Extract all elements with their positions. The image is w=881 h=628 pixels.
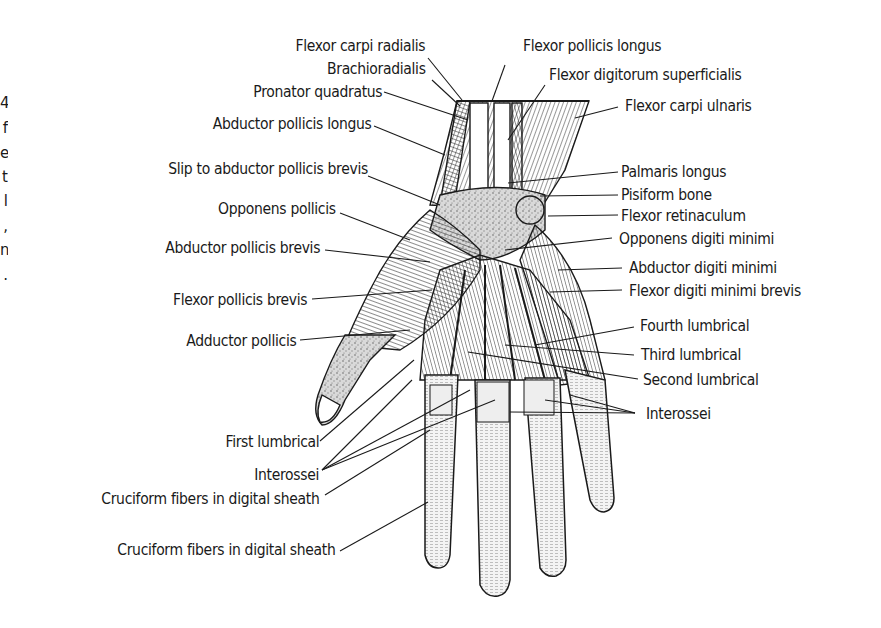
label-first-lumbrical: First lumbrical	[225, 433, 319, 451]
label-pisiform-bone: Pisiform bone	[621, 186, 712, 204]
label-slip-to-abductor-pollicis-brevis: Slip to abductor pollicis brevis	[168, 160, 368, 178]
label-interossei-left: Interossei	[254, 466, 319, 484]
label-interossei-right: Interossei	[646, 405, 711, 423]
hand-illustration	[0, 0, 881, 628]
label-opponens-pollicis: Opponens pollicis	[218, 200, 336, 218]
label-flexor-pollicis-brevis: Flexor pollicis brevis	[173, 291, 307, 309]
little-finger	[565, 370, 614, 512]
label-adductor-pollicis: Adductor pollicis	[186, 332, 296, 350]
fingers	[425, 370, 614, 596]
label-flexor-digitorum-superficialis: Flexor digitorum superficialis	[549, 66, 742, 84]
label-flexor-pollicis-longus: Flexor pollicis longus	[523, 37, 661, 55]
label-flexor-carpi-ulnaris: Flexor carpi ulnaris	[625, 97, 752, 115]
label-flexor-retinaculum: Flexor retinaculum	[621, 207, 746, 225]
label-abductor-digiti-minimi: Abductor digiti minimi	[629, 259, 777, 277]
label-flexor-carpi-radialis: Flexor carpi radialis	[295, 37, 425, 55]
hand-anatomy-figure: 4 f e t l , n .	[0, 0, 881, 628]
label-flexor-digiti-minimi-brevis: Flexor digiti minimi brevis	[629, 282, 801, 300]
label-third-lumbrical: Third lumbrical	[641, 346, 741, 364]
label-brachioradialis: Brachioradialis	[327, 60, 426, 78]
label-abductor-pollicis-longus: Abductor pollicis longus	[213, 115, 372, 133]
label-opponens-digiti-minimi: Opponens digiti minimi	[619, 230, 774, 248]
label-pronator-quadratus: Pronator quadratus	[253, 83, 382, 101]
label-fourth-lumbrical: Fourth lumbrical	[640, 317, 749, 335]
label-cruciform-fibers-1: Cruciform fibers in digital sheath	[102, 490, 320, 508]
label-palmaris-longus: Palmaris longus	[621, 163, 726, 181]
label-cruciform-fibers-2: Cruciform fibers in digital sheath	[118, 541, 336, 559]
label-second-lumbrical: Second lumbrical	[643, 371, 759, 389]
wrist-palm	[345, 188, 605, 386]
label-abductor-pollicis-brevis: Abductor pollicis brevis	[165, 239, 320, 257]
